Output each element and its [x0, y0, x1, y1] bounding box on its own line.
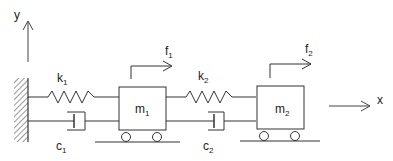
spring-k1-label: k1	[57, 71, 68, 87]
damper-c1	[28, 112, 119, 130]
force-f2-label: f2	[305, 42, 313, 58]
spring-k1	[28, 91, 119, 103]
y-axis-label: y	[14, 8, 20, 22]
damper-c2	[166, 112, 256, 130]
damper-c2-label: c2	[203, 139, 214, 155]
y-axis-arrow	[23, 21, 33, 62]
force-f2-arrow	[270, 59, 311, 78]
x-axis-arrow	[329, 101, 370, 111]
spring-k2	[166, 91, 256, 103]
force-f1-label: f1	[165, 44, 173, 60]
spring-damper-diagram: y k1 c1 m1 f1 k2 c2	[0, 0, 393, 161]
x-axis-label: x	[377, 93, 383, 107]
damper-c1-label: c1	[56, 139, 67, 155]
force-f1-arrow	[131, 61, 172, 79]
fixed-wall	[14, 78, 28, 142]
spring-k2-label: k2	[198, 69, 209, 85]
